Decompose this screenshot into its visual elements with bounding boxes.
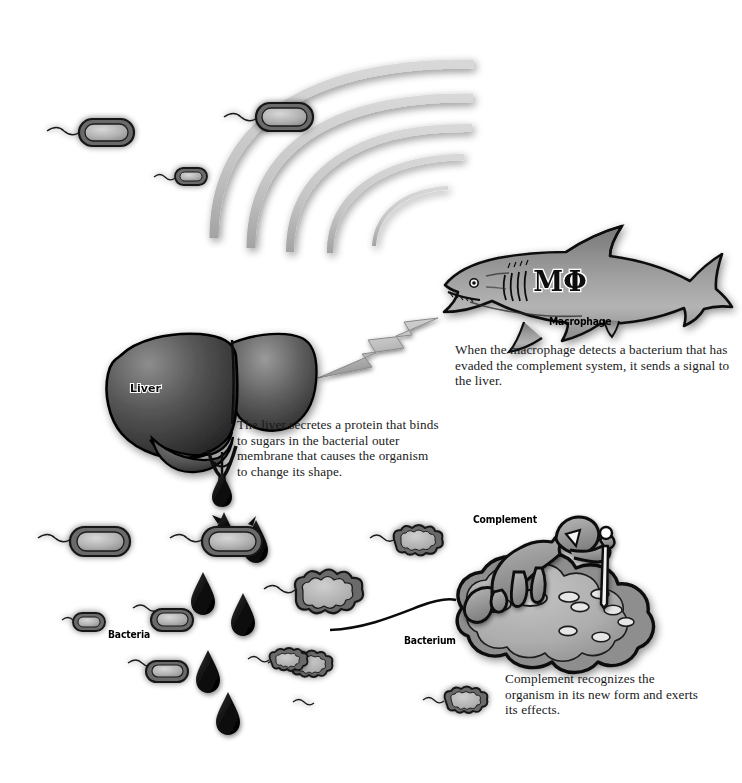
liver-label-text: Liver (130, 382, 161, 395)
bacterium-label: Bacterium (404, 634, 456, 646)
membrane-attack-tool (601, 546, 608, 608)
macrophage-caption: When the macrophage detects a bacterium … (455, 342, 740, 389)
macrophage-label: Macrophage (549, 315, 611, 327)
tool-knob (600, 527, 612, 539)
bacteria-label: Bacteria (108, 628, 150, 640)
macrophage-symbol: MΦ (533, 266, 586, 297)
liver-caption: The liver secretes a protein that binds … (237, 417, 442, 479)
immunity-illustration: MΦ Liver (0, 0, 742, 783)
complement-label: Complement (473, 513, 537, 525)
complement-caption: Complement recognizes the organism in it… (505, 671, 705, 718)
